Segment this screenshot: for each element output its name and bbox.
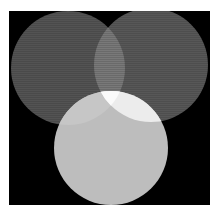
venn-diagram [0,0,221,215]
venn-svg [0,0,221,215]
